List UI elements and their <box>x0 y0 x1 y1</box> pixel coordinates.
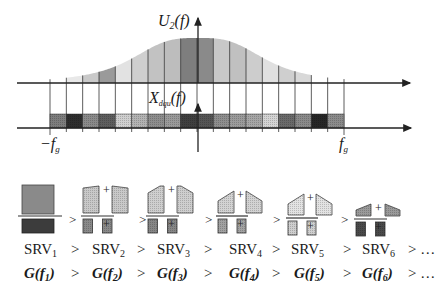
svg-text:+: + <box>375 201 382 215</box>
svg-text:+: + <box>307 219 314 233</box>
gt-sign: > <box>272 265 280 282</box>
neg-fg-label: −fg <box>40 135 60 153</box>
gt-sign: > <box>204 265 212 282</box>
srv-3: SRV3 <box>157 241 190 258</box>
gt-sign: > <box>71 265 79 282</box>
gt-sign: > <box>204 241 212 258</box>
gt-sign: > <box>71 241 79 258</box>
svg-text:+: + <box>307 191 314 205</box>
svg-text:>: > <box>139 212 146 227</box>
gt-sign: > <box>343 241 351 258</box>
srv-1: SRV1 <box>24 241 57 258</box>
tail-sign: > … <box>408 241 435 258</box>
srv-5: SRV5 <box>291 241 324 258</box>
g-3: G(f3) <box>157 265 188 282</box>
svg-text:+: + <box>103 217 110 231</box>
srv-6: SRV6 <box>362 241 395 258</box>
g-6: G(f6) <box>362 265 393 282</box>
tail-sign: > … <box>408 265 435 282</box>
gt-sign: > <box>343 265 351 282</box>
svg-text:>: > <box>273 212 280 227</box>
svg-text:+: + <box>168 183 175 197</box>
g-row: G(f1) > G(f2) > G(f3) > G(f4) > G(f5) > … <box>0 265 447 285</box>
gt-sign: > <box>137 265 145 282</box>
gt-sign: > <box>137 241 145 258</box>
svg-text:+: + <box>237 217 244 231</box>
srv-row: SRV1 > SRV2 > SRV3 > SRV4 > SRV5 > SRV6 … <box>0 241 447 261</box>
svg-text:+: + <box>103 183 110 197</box>
srv-shape-sequence: >++>++>++>++>++ <box>18 183 400 236</box>
fg-label: fg <box>339 135 348 153</box>
svg-text:>: > <box>69 212 76 227</box>
svg-text:+: + <box>168 217 175 231</box>
g-2: G(f2) <box>92 265 123 282</box>
g-4: G(f4) <box>229 265 260 282</box>
u2-axis-label: U2(f) <box>158 12 190 30</box>
svg-text:+: + <box>375 220 382 234</box>
xdqu-axis-label: Xdqu(f) <box>149 89 186 107</box>
srv-4: SRV4 <box>229 241 262 258</box>
svg-text:+: + <box>237 188 244 202</box>
xdqu-spectrum-bins <box>50 114 344 128</box>
svg-text:>: > <box>205 212 212 227</box>
svg-text:>: > <box>341 212 348 227</box>
g-5: G(f5) <box>294 265 325 282</box>
g-1: G(f1) <box>24 265 55 282</box>
srv-2: SRV2 <box>92 241 125 258</box>
gt-sign: > <box>272 241 280 258</box>
